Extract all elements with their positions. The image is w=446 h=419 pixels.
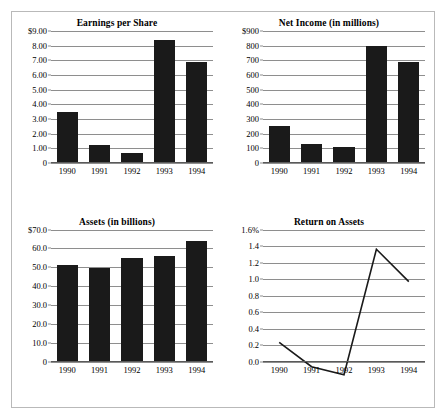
y-tick-label: 0.2: [248, 341, 259, 350]
bar: [186, 241, 207, 361]
y-tick-label: 6.00: [32, 71, 47, 80]
x-tick-label: 1991: [89, 365, 110, 375]
bar: [186, 62, 207, 162]
y-tick-label: 0: [43, 159, 47, 168]
plot-canvas: 0.00.20.40.60.81.01.21.41.6%: [263, 230, 425, 362]
x-axis-line: [263, 361, 425, 362]
x-tick-label: 1993: [154, 166, 175, 176]
y-tick-label: 0: [255, 159, 259, 168]
y-tick-label: $900: [242, 27, 259, 36]
plot-canvas: 01.002.003.004.005.006.007.008.00$9.00: [51, 31, 213, 163]
bar: [121, 258, 142, 360]
y-tick-label: 0.4: [248, 324, 259, 333]
y-tick-label: 20.0: [32, 319, 47, 328]
chart-panel-earnings-per-share: Earnings per Share 01.002.003.004.005.00…: [11, 11, 223, 210]
y-tick-label: 400: [246, 100, 259, 109]
x-tick-label: 1994: [186, 166, 207, 176]
y-tick-label: 1.2: [248, 258, 259, 267]
x-tick-label: 1993: [366, 166, 387, 176]
bar-series: [263, 31, 425, 162]
y-tick-label: 0.0: [248, 357, 259, 366]
y-tick-label: 1.6%: [241, 225, 259, 234]
x-tick-label: 1990: [269, 365, 290, 375]
chart-panel-assets: Assets (in billions) 010.020.030.040.050…: [11, 210, 223, 409]
x-tick-label: 1991: [301, 166, 322, 176]
x-tick-label: 1990: [269, 166, 290, 176]
y-tick-label: 50.0: [32, 263, 47, 272]
x-axis-labels: 19901991199219931994: [51, 166, 213, 176]
plot-canvas: 0100200300400500600700800$900: [263, 31, 425, 163]
x-axis-line: [51, 361, 213, 362]
gridline: [51, 163, 213, 164]
figure-page: Earnings per Share 01.002.003.004.005.00…: [0, 0, 446, 419]
y-tick-label: 1.4: [248, 242, 259, 251]
bar: [301, 144, 322, 162]
bar: [89, 145, 110, 162]
x-tick-label: 1992: [333, 365, 354, 375]
y-tick-label: 3.00: [32, 115, 47, 124]
y-tick-label: 8.00: [32, 41, 47, 50]
y-tick-label: 700: [246, 56, 259, 65]
y-tick-label: 100: [246, 144, 259, 153]
bar: [154, 256, 175, 361]
y-tick-label: 10.0: [32, 338, 47, 347]
y-tick-label: 60.0: [32, 244, 47, 253]
chart-panel-net-income: Net Income (in millions) 010020030040050…: [223, 11, 435, 210]
bar: [154, 40, 175, 162]
x-tick-label: 1990: [57, 365, 78, 375]
plot-area-return-on-assets: 0.00.20.40.60.81.01.21.41.6%: [263, 230, 425, 362]
x-axis-line: [51, 162, 213, 163]
y-tick-label: 300: [246, 115, 259, 124]
bar-series: [51, 230, 213, 361]
y-tick-label: 7.00: [32, 56, 47, 65]
y-tick-label: 0.8: [248, 291, 259, 300]
x-axis-line: [263, 162, 425, 163]
bar: [89, 268, 110, 360]
x-tick-label: 1994: [398, 365, 419, 375]
x-tick-label: 1992: [121, 365, 142, 375]
plot-area-net-income: 0100200300400500600700800$900: [263, 31, 425, 163]
x-axis-labels: 19901991199219931994: [51, 365, 213, 375]
y-tick-label: 5.00: [32, 85, 47, 94]
plot-area-earnings-per-share: 01.002.003.004.005.006.007.008.00$9.00: [51, 31, 213, 163]
x-tick-label: 1992: [333, 166, 354, 176]
y-tick-label: 500: [246, 85, 259, 94]
bar: [121, 153, 142, 162]
y-tick-label: $70.0: [28, 225, 47, 234]
x-tick-label: 1993: [154, 365, 175, 375]
y-tick-label: 200: [246, 129, 259, 138]
y-tick-label: 1.0: [248, 275, 259, 284]
y-tick-label: 600: [246, 71, 259, 80]
y-tick-label: 1.00: [32, 144, 47, 153]
bar: [57, 265, 78, 360]
y-tick-label: 30.0: [32, 300, 47, 309]
y-tick-label: 0.6: [248, 308, 259, 317]
gridline: [263, 163, 425, 164]
chart-grid: Earnings per Share 01.002.003.004.005.00…: [11, 11, 435, 408]
y-tick-label: 2.00: [32, 129, 47, 138]
y-tick-label: 4.00: [32, 100, 47, 109]
gridline: [51, 362, 213, 363]
bar: [398, 62, 419, 162]
y-tick-label: $9.00: [28, 27, 47, 36]
plot-area-assets: 010.020.030.040.050.060.0$70.0: [51, 230, 213, 362]
x-tick-label: 1991: [301, 365, 322, 375]
x-tick-label: 1991: [89, 166, 110, 176]
bar: [269, 126, 290, 162]
x-tick-label: 1994: [186, 365, 207, 375]
y-tick-label: 800: [246, 41, 259, 50]
x-axis-labels: 19901991199219931994: [263, 166, 425, 176]
x-tick-label: 1990: [57, 166, 78, 176]
x-tick-label: 1992: [121, 166, 142, 176]
x-axis-labels: 19901991199219931994: [263, 365, 425, 375]
bar: [333, 147, 354, 162]
bar: [57, 112, 78, 162]
x-tick-label: 1994: [398, 166, 419, 176]
x-tick-label: 1993: [366, 365, 387, 375]
chart-panel-return-on-assets: Return on Assets 0.00.20.40.60.81.01.21.…: [223, 210, 435, 409]
y-tick-label: 0: [43, 357, 47, 366]
bar-series: [51, 31, 213, 162]
plot-canvas: 010.020.030.040.050.060.0$70.0: [51, 230, 213, 362]
bar: [366, 46, 387, 162]
line-path: [279, 249, 409, 375]
